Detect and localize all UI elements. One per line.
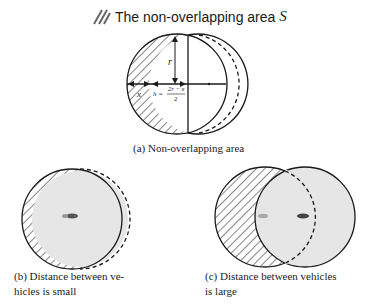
caption-b-line2: hicles is small bbox=[14, 285, 76, 297]
caption-b-line1: (b) Distance between ve- bbox=[14, 270, 125, 283]
x-label: x bbox=[136, 89, 141, 99]
h-label: h = bbox=[153, 90, 163, 98]
panel-b-diagram bbox=[15, 165, 135, 275]
r-label: r bbox=[168, 56, 172, 67]
h-numerator: 2r − x bbox=[168, 85, 184, 92]
h-denominator: 2 bbox=[174, 95, 177, 102]
caption-a: (a) Non-overlapping area bbox=[133, 142, 244, 155]
panel-c-diagram bbox=[210, 160, 355, 275]
caption-c-line2: is large bbox=[205, 285, 237, 297]
caption-c-line1: (c) Distance between vehicles bbox=[205, 270, 337, 283]
figure: r x h = 2r − x 2 (a) Non-overlapping are… bbox=[0, 0, 370, 305]
panel-a-diagram: r x h = 2r − x 2 bbox=[120, 30, 249, 140]
vehicle-icon bbox=[62, 214, 78, 219]
